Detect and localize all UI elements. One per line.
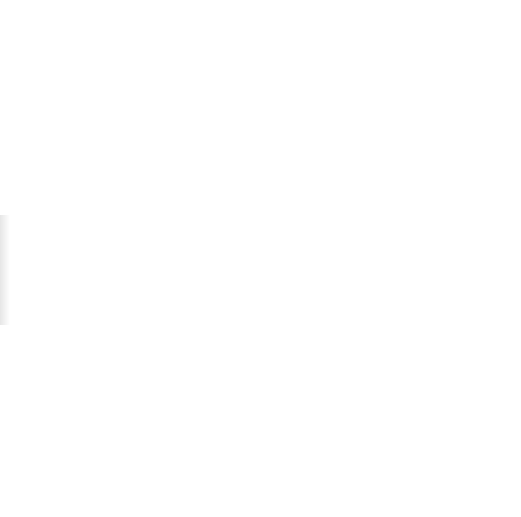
crochet-chart <box>0 0 521 517</box>
